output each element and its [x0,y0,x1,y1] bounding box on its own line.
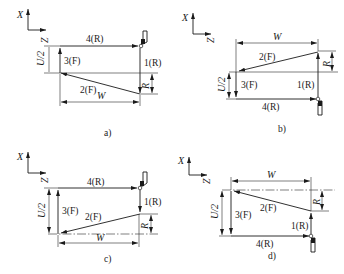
dim-r-label: R [140,83,151,90]
axis-x-label: X [181,12,189,23]
axis-z-label: Z [39,37,50,43]
taper-cutting-cycle-diagrams: X Z 4(R) 1(R) 2(F) 3(F) U/2 W R [0,0,344,274]
dim-r-label: R [139,223,150,230]
move-1-label: 1(R) [297,80,314,91]
move-3-label: 3(F) [62,206,78,217]
move-1-label: 1(R) [144,197,161,208]
panel-a: X Z 4(R) 1(R) 2(F) 3(F) U/2 W R [16,9,161,139]
dim-w-label: W [97,90,107,101]
cutting-tool-icon [316,97,322,115]
dim-r-label: R [311,199,322,206]
caption-a: a) [104,128,111,139]
move-3-label: 3(F) [241,80,257,91]
axes-icon: X Z [177,155,212,184]
move-4-label: 4(R) [262,102,279,113]
dim-w-label: W [273,31,283,42]
axis-z-label: Z [205,37,216,43]
move-3-label: 3(F) [235,210,251,221]
axis-x-label: X [16,151,24,162]
move-2-label: 2(F) [259,52,275,63]
dim-u2-label: U/2 [35,51,46,66]
dim-w-label: W [96,232,106,243]
move-4-label: 4(R) [256,239,273,250]
dim-u2-label: U/2 [209,204,220,219]
axis-z-label: Z [201,178,212,184]
cutting-tool-icon [139,31,147,48]
dim-u2-label: U/2 [36,203,47,218]
axes-icon: X Z [16,9,50,43]
axes-icon: X Z [181,12,216,43]
axis-x-label: X [177,155,185,166]
move-2-taper-feed [239,52,318,71]
caption-b: b) [278,124,286,135]
dim-r-label: R [321,61,332,68]
cutting-tool-icon [138,172,147,190]
move-2-label: 2(F) [80,85,96,96]
axes-icon: X Z [16,151,50,183]
move-4-label: 4(R) [87,177,104,188]
axis-x-label: X [16,9,24,20]
panel-c: X Z 4(R) 1(R) 2(F) 3(F) U/2 W R [16,151,161,265]
dim-w-label: W [267,169,277,180]
caption-c: c) [104,254,111,265]
axis-z-label: Z [39,177,50,183]
move-1-label: 1(R) [144,58,161,69]
move-3-label: 3(F) [64,56,80,67]
move-2-label: 2(F) [260,203,276,214]
move-4-label: 4(R) [86,34,103,45]
move-2-label: 2(F) [85,212,101,223]
panel-b: X Z W 2(F) 3(F) 4(R) 1(R) U/2 R [181,12,338,135]
panel-d: X Z W 2(F) 3(F) 4(R) 1(R) U/2 R [177,155,335,262]
dim-u2-label: U/2 [216,77,227,92]
move-1-label: 1(R) [291,221,308,232]
cutting-tool-icon [309,234,315,252]
caption-d: d) [268,251,276,262]
